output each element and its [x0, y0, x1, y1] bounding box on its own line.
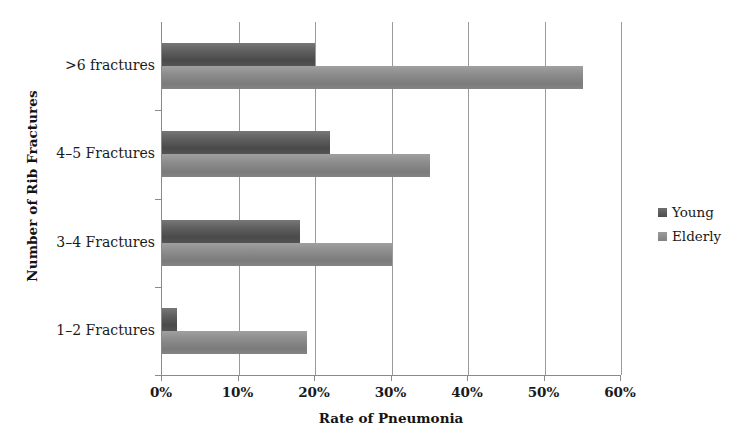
- y-tick: [155, 199, 161, 200]
- x-tick-60%: [620, 375, 621, 381]
- x-tick-label: 20%: [284, 384, 344, 400]
- bar-elderly-1: [162, 243, 392, 266]
- gridline-60%: [621, 22, 622, 375]
- x-tick-40%: [467, 375, 468, 381]
- x-tick-label: 50%: [514, 384, 574, 400]
- y-axis-label-0: 1–2 Fractures: [10, 322, 155, 338]
- legend-label: Young: [672, 204, 714, 220]
- x-tick-10%: [238, 375, 239, 381]
- y-tick: [155, 110, 161, 111]
- x-tick-50%: [544, 375, 545, 381]
- legend-label: Elderly: [672, 228, 721, 244]
- plot-area: [161, 22, 621, 375]
- bar-elderly-3: [162, 66, 583, 89]
- y-axis-label-1: 3–4 Fractures: [10, 234, 155, 250]
- x-tick-label: 10%: [208, 384, 268, 400]
- bar-elderly-0: [162, 331, 307, 354]
- legend-swatch-icon: [658, 208, 667, 217]
- pneumonia-rate-bar-chart: Number of Rib Fractures >6 fractures4–5 …: [0, 0, 753, 440]
- bar-young-3: [162, 43, 315, 66]
- x-tick-label: 60%: [590, 384, 650, 400]
- x-tick-label: 0%: [131, 384, 191, 400]
- x-tick-label: 30%: [361, 384, 421, 400]
- y-axis-label-3: >6 fractures: [10, 57, 155, 73]
- y-tick: [155, 375, 161, 376]
- bar-young-0: [162, 308, 177, 331]
- bar-elderly-2: [162, 154, 430, 177]
- legend-swatch-icon: [658, 232, 667, 241]
- x-tick-20%: [314, 375, 315, 381]
- legend: YoungElderly: [658, 200, 753, 248]
- y-tick: [155, 287, 161, 288]
- bar-young-1: [162, 220, 300, 243]
- legend-item-young[interactable]: Young: [658, 200, 753, 224]
- x-tick-30%: [391, 375, 392, 381]
- legend-item-elderly[interactable]: Elderly: [658, 224, 753, 248]
- y-axis-category-labels: >6 fractures4–5 Fractures3–4 Fractures1–…: [0, 22, 155, 375]
- bar-young-2: [162, 131, 330, 154]
- x-axis-title: Rate of Pneumonia: [161, 410, 621, 426]
- y-axis-label-2: 4–5 Fractures: [10, 145, 155, 161]
- x-tick-label: 40%: [437, 384, 497, 400]
- x-tick-0%: [161, 375, 162, 381]
